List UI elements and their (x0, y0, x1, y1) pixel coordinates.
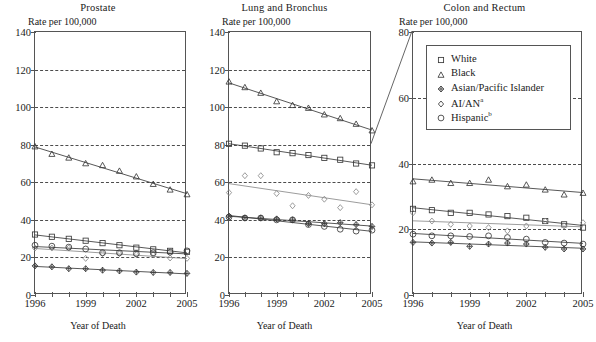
square-icon (433, 52, 449, 64)
y-tick-label: 20 (215, 252, 226, 263)
panel-prostate: Prostate Rate per 100,000 02040608010012… (0, 0, 196, 342)
series-markers (226, 214, 375, 234)
y-tick-label: 100 (15, 102, 31, 113)
panel-lung-and-bronchus: Lung and Bronchus Rate per 100,000 02040… (196, 0, 373, 342)
legend-label: White (449, 53, 477, 64)
legend-label: Hispanicb (449, 110, 492, 123)
y-tick-label: 40 (21, 214, 32, 225)
legend-item-white: White (433, 51, 562, 66)
trend-line (413, 208, 583, 226)
x-tick-label: 1996 (25, 298, 46, 309)
x-axis-label: Year of Death (373, 320, 596, 331)
plot-area-prostate: 0204060801001201401996199920022005 (34, 31, 186, 294)
x-axis-label: Year of Death (0, 320, 196, 331)
x-axis-label: Year of Death (196, 320, 373, 331)
series-layer (35, 32, 187, 295)
x-tick-label: 1996 (403, 298, 424, 309)
y-tick-label: 140 (15, 27, 31, 38)
legend-label: Black (449, 67, 476, 78)
y-tick-label: 20 (399, 224, 410, 235)
legend-item-aian: AI/ANa (433, 95, 562, 110)
trend-line (35, 147, 187, 194)
panel-colon-and-rectum: Colon and Rectum Rate per 100,000 020406… (373, 0, 596, 342)
series-markers (32, 242, 190, 256)
y-tick-label: 80 (399, 27, 410, 38)
y-tick-label: 120 (209, 64, 225, 75)
series-markers (410, 231, 586, 247)
y-tick-label: 80 (21, 139, 32, 150)
circle-icon (433, 110, 449, 122)
panel-title: Prostate (0, 2, 196, 13)
legend-item-black: Black (433, 66, 562, 81)
y-tick-label: 40 (215, 214, 226, 225)
legend-item-api: Asian/Pacific Islander (433, 80, 562, 95)
trend-line (229, 83, 372, 130)
y-axis-note: Rate per 100,000 (28, 16, 97, 27)
trend-line (229, 215, 372, 231)
y-tick-label: 60 (215, 177, 226, 188)
y-axis-note: Rate per 100,000 (222, 16, 291, 27)
y-axis-note: Rate per 100,000 (399, 16, 468, 27)
x-tick-label: 2002 (126, 298, 147, 309)
trend-line (35, 266, 187, 273)
y-tick-label: 140 (209, 27, 225, 38)
x-tick-label: 1999 (75, 298, 96, 309)
legend-footnote-marker: a (480, 96, 483, 104)
y-tick-label: 20 (21, 252, 32, 263)
legend-item-hispanic: Hispanicb (433, 109, 562, 124)
trend-line (413, 242, 583, 248)
triangle-icon (433, 67, 449, 79)
series-markers (226, 173, 374, 211)
panel-title: Colon and Rectum (373, 2, 596, 13)
trend-line (413, 179, 583, 193)
plot-area-lung: 0204060801001201401996199920022005 (228, 31, 371, 294)
legend-label: AI/ANa (449, 96, 483, 109)
x-tick-label: 1996 (219, 298, 240, 309)
y-tick-label: 60 (399, 92, 410, 103)
y-tick-label: 80 (215, 139, 226, 150)
x-tick-label: 1999 (459, 298, 480, 309)
x-tick-label: 2005 (177, 298, 198, 309)
series-markers (410, 239, 586, 252)
figure-root: Prostate Rate per 100,000 02040608010012… (0, 0, 596, 342)
series-markers (32, 232, 189, 254)
y-tick-label: 60 (21, 177, 32, 188)
x-tick-label: 1999 (266, 298, 287, 309)
trend-line (229, 144, 372, 166)
diamond-cross-icon (433, 81, 449, 93)
trend-line (413, 221, 583, 227)
x-tick-label: 2005 (573, 298, 594, 309)
series-markers (32, 263, 190, 277)
x-tick-label: 2002 (314, 298, 335, 309)
x-tick-mark (187, 292, 188, 297)
y-tick-label: 120 (15, 64, 31, 75)
series-layer (229, 32, 372, 295)
legend-footnote-marker: b (488, 110, 492, 118)
y-tick-label: 100 (209, 102, 225, 113)
legend: WhiteBlackAsian/Pacific IslanderAI/ANaHi… (426, 45, 571, 130)
y-tick-label: 40 (399, 158, 410, 169)
legend-label: Asian/Pacific Islander (449, 82, 544, 93)
x-tick-mark (583, 292, 584, 297)
x-tick-label: 2002 (516, 298, 537, 309)
series-markers (410, 177, 586, 197)
series-markers (226, 79, 375, 133)
diamond-small-icon (433, 96, 449, 108)
trend-line (229, 184, 372, 205)
trend-line (413, 233, 583, 243)
panel-title: Lung and Bronchus (196, 2, 373, 13)
